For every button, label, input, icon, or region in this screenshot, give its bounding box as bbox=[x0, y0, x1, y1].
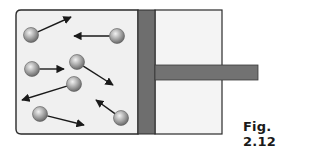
gas-particle bbox=[110, 29, 125, 44]
piston-rod bbox=[155, 65, 258, 80]
gas-particle bbox=[25, 62, 40, 77]
gas-particle bbox=[114, 111, 129, 126]
gas-particle bbox=[24, 28, 39, 43]
figure-caption: Fig. 2.12 bbox=[243, 119, 299, 146]
gas-particle bbox=[33, 107, 48, 122]
piston bbox=[138, 10, 155, 134]
gas-particle bbox=[67, 77, 82, 92]
gas-particle bbox=[70, 55, 85, 70]
